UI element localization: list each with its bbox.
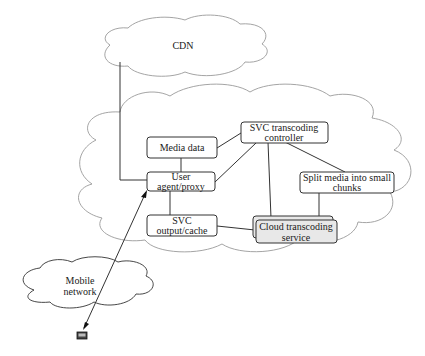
node-cloud-transcoding-service[interactable]: Cloud transcoding service — [253, 216, 337, 243]
mobile-device-icon — [77, 332, 87, 339]
svc-output-label-line2: output/cache — [156, 225, 208, 236]
cloud-service-label-line1: Cloud transcoding — [259, 221, 333, 232]
node-user-agent-proxy[interactable]: User agent/proxy — [147, 171, 215, 192]
cdn-label: CDN — [172, 40, 193, 51]
service-cloud — [79, 84, 411, 252]
arrowhead-device — [83, 322, 89, 330]
node-svc-transcoding-controller[interactable]: SVC transcoding controller — [241, 122, 328, 143]
node-media-data[interactable]: Media data — [147, 137, 217, 158]
cloud-service-label-line2: service — [282, 232, 311, 243]
media-data-label: Media data — [160, 142, 205, 153]
node-svc-output-cache[interactable]: SVC output/cache — [147, 215, 217, 236]
node-split-media[interactable]: Split media into small chunks — [300, 172, 394, 193]
controller-label-line2: controller — [265, 132, 305, 143]
diagram-canvas: CDN Mobile network Media data SVC transc… — [0, 0, 425, 356]
diagram: CDN Mobile network Media data SVC transc… — [0, 0, 425, 356]
split-media-label-line2: chunks — [333, 182, 361, 193]
mobile-network-label-line1: Mobile — [66, 275, 95, 286]
mobile-network-label-line2: network — [64, 286, 97, 297]
user-agent-label-line2: agent/proxy — [157, 181, 205, 192]
